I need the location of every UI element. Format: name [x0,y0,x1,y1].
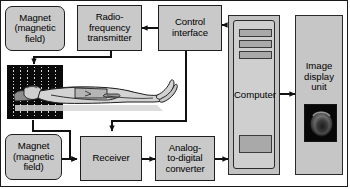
node-magnet-bottom[interactable]: Magnet (magnetic field) [5,134,62,180]
computer-tower[interactable]: Computer [228,15,280,175]
node-magnet-bottom-label: Magnet (magnetic field) [7,141,60,173]
drive-bay-3 [239,51,272,59]
node-analog-to-digital-converter[interactable]: Analog- to-digital converter [155,136,215,181]
node-rf-transmitter[interactable]: Radio- frequency transmitter [77,5,142,51]
brain-scan-image [304,104,337,142]
node-magnet-top-label: Magnet (magnetic field) [7,13,63,45]
mri-system-diagram: Magnet (magnetic field) Radio- frequency… [0,0,350,189]
image-display-unit[interactable]: Image display unit [295,15,343,175]
node-receiver-label: Receiver [82,153,140,164]
computer-label: Computer [229,89,281,100]
drive-bay-2 [239,40,272,48]
node-rf-transmitter-label: Radio- frequency transmitter [79,12,140,44]
node-control-interface[interactable]: Control interface [158,5,222,51]
patient-in-scanner-illustration [7,65,179,120]
image-display-unit-label: Image display unit [296,61,342,93]
drive-bay-1 [239,29,272,37]
node-receiver[interactable]: Receiver [80,136,142,181]
node-control-interface-label: Control interface [160,17,220,38]
patient-figure [7,65,179,120]
node-adc-label: Analog- to-digital converter [157,143,213,175]
node-magnet-top[interactable]: Magnet (magnetic field) [5,6,65,51]
scan-slice-graphic [305,105,337,142]
front-panel-vent [239,135,272,153]
wire-rf-to-scanner [34,51,111,64]
